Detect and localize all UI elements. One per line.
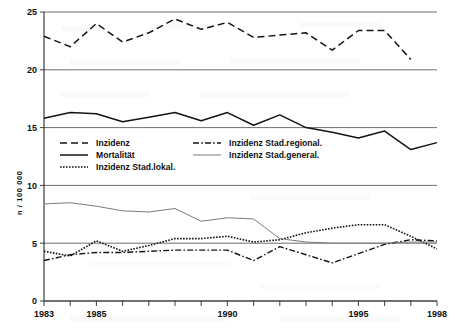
x-tick-label: 1985 xyxy=(86,309,106,319)
x-axis-ticks: 19831985199019951998 xyxy=(34,301,447,319)
legend-label: Inzidenz xyxy=(96,138,130,148)
y-tick-label: 20 xyxy=(27,65,37,75)
x-tick-label: 1990 xyxy=(217,309,237,319)
y-tick-label: 10 xyxy=(27,181,37,191)
chart-figure: 0510152025 19831985199019951998 n / 100 … xyxy=(0,0,455,330)
y-tick-label: 15 xyxy=(27,123,37,133)
legend-label: Mortalität xyxy=(96,150,135,160)
x-tick-label: 1983 xyxy=(34,309,54,319)
line-chart: 0510152025 19831985199019951998 n / 100 … xyxy=(0,0,455,330)
series-line-dashed xyxy=(44,19,411,59)
y-tick-label: 5 xyxy=(32,239,37,249)
series-line-thin-solid xyxy=(44,203,437,243)
y-tick-label: 25 xyxy=(27,7,37,17)
y-tick-label: 0 xyxy=(32,296,37,306)
y-axis-ticks: 0510152025 xyxy=(27,7,44,306)
legend-label: Inzidenz Stad.regional. xyxy=(229,138,322,148)
x-tick-label: 1998 xyxy=(427,309,447,319)
legend-label: Inzidenz Stad.lokal. xyxy=(96,162,175,172)
y-axis-title: n / 100 000 xyxy=(15,170,24,215)
legend-label: Inzidenz Stad.general. xyxy=(229,150,319,160)
x-tick-label: 1995 xyxy=(348,309,368,319)
series-line-dotted xyxy=(44,225,437,256)
chart-legend: InzidenzMortalitätInzidenz Stad.lokal.In… xyxy=(60,138,322,172)
